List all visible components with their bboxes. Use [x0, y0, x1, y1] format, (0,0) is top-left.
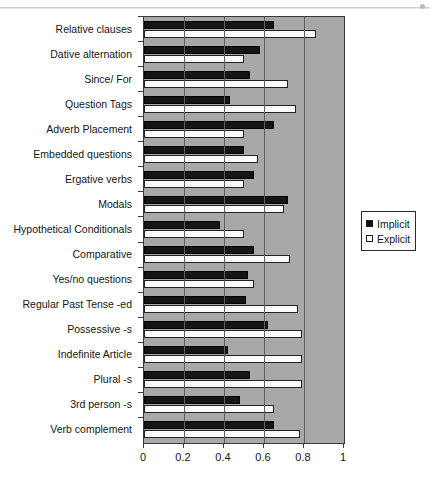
bar-explicit — [144, 355, 302, 363]
bar-implicit — [144, 171, 254, 179]
bar-explicit — [144, 430, 300, 438]
bar-row — [144, 67, 344, 92]
bar-row — [144, 217, 344, 242]
x-tick — [343, 443, 344, 448]
bar-implicit — [144, 96, 230, 104]
category-label: Modals — [98, 198, 132, 210]
bar-row — [144, 268, 344, 293]
bar-explicit — [144, 230, 244, 238]
bar-row — [144, 393, 344, 418]
bar-row — [144, 92, 344, 117]
bar-implicit — [144, 321, 268, 329]
category-label: Ergative verbs — [65, 173, 132, 185]
bar-explicit — [144, 280, 254, 288]
x-tick-label: 0.2 — [166, 451, 200, 464]
category-label: Plural -s — [93, 373, 132, 385]
plot-area — [143, 16, 345, 444]
bar-row — [144, 418, 344, 443]
bar-explicit — [144, 105, 296, 113]
legend-label: Explicit — [377, 233, 410, 245]
bar-implicit — [144, 246, 254, 254]
category-label: Possessive -s — [67, 323, 132, 335]
bar-row — [144, 368, 344, 393]
category-label: Indefinite Article — [58, 348, 132, 360]
category-label: Dative alternation — [50, 48, 132, 60]
x-tick-label: 0 — [126, 451, 160, 464]
bar-implicit — [144, 71, 250, 79]
bar-implicit — [144, 221, 220, 229]
bar-explicit — [144, 30, 316, 38]
bar-row — [144, 192, 344, 217]
x-tick-label: 0.6 — [246, 451, 280, 464]
bar-row — [144, 17, 344, 42]
category-label: Hypothetical Conditionals — [14, 223, 132, 235]
bar-row — [144, 142, 344, 167]
grouped-bar-chart: Relative clausesDative alternationSince/… — [0, 0, 430, 479]
bar-explicit — [144, 80, 288, 88]
bar-implicit — [144, 371, 250, 379]
x-tick-label: 0.8 — [286, 451, 320, 464]
category-label: Comparative — [72, 248, 132, 260]
category-label: Regular Past Tense -ed — [22, 298, 132, 310]
bar-implicit — [144, 121, 274, 129]
bar-row — [144, 293, 344, 318]
bar-explicit — [144, 205, 284, 213]
legend-label: Implicit — [377, 218, 410, 230]
bar-row — [144, 318, 344, 343]
bar-explicit — [144, 380, 302, 388]
bar-explicit — [144, 330, 302, 338]
gridline — [264, 17, 265, 443]
x-tick — [143, 443, 144, 448]
bar-explicit — [144, 130, 244, 138]
x-tick-label: 0.4 — [206, 451, 240, 464]
bar-row — [144, 117, 344, 142]
category-label: Since/ For — [84, 73, 132, 85]
category-label: Yes/no questions — [52, 273, 132, 285]
x-tick-label: 1 — [326, 451, 360, 464]
hollow-square-icon — [366, 235, 373, 242]
category-label: 3rd person -s — [70, 398, 132, 410]
category-label: Question Tags — [65, 98, 132, 110]
legend-item-implicit: Implicit — [366, 216, 410, 231]
bar-explicit — [144, 305, 298, 313]
filled-square-icon — [366, 220, 373, 227]
gridline — [184, 17, 185, 443]
bar-implicit — [144, 271, 248, 279]
bar-row — [144, 42, 344, 67]
bar-rows — [144, 17, 344, 443]
bar-implicit — [144, 346, 228, 354]
bar-row — [144, 343, 344, 368]
bar-explicit — [144, 155, 258, 163]
bar-row — [144, 167, 344, 192]
category-label: Verb complement — [50, 423, 132, 435]
bar-implicit — [144, 146, 244, 154]
x-tick — [183, 443, 184, 448]
bar-implicit — [144, 46, 260, 54]
category-label: Relative clauses — [56, 23, 132, 35]
bar-explicit — [144, 180, 244, 188]
x-tick — [223, 443, 224, 448]
gridline — [224, 17, 225, 443]
bar-implicit — [144, 21, 274, 29]
bar-implicit — [144, 421, 274, 429]
category-axis-labels: Relative clausesDative alternationSince/… — [0, 16, 138, 442]
x-axis-line — [143, 443, 344, 444]
bar-explicit — [144, 255, 290, 263]
x-tick — [263, 443, 264, 448]
bar-explicit — [144, 55, 244, 63]
bar-explicit — [144, 405, 274, 413]
bar-implicit — [144, 196, 288, 204]
legend-item-explicit: Explicit — [366, 231, 410, 246]
category-label: Adverb Placement — [46, 123, 132, 135]
chart-legend: Implicit Explicit — [361, 211, 416, 251]
x-tick — [303, 443, 304, 448]
bar-implicit — [144, 396, 240, 404]
bar-implicit — [144, 296, 246, 304]
category-label: Embedded questions — [33, 148, 132, 160]
gridline — [304, 17, 305, 443]
bar-row — [144, 243, 344, 268]
